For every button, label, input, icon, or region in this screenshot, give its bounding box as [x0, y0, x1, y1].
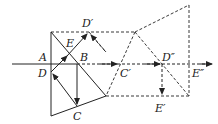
- label-D-double-prime: D″: [161, 51, 176, 64]
- prism: [51, 32, 106, 116]
- label-C-prime: C′: [120, 67, 131, 80]
- label-B: B: [79, 51, 88, 64]
- label-D: D: [37, 67, 47, 80]
- label-A: A: [38, 51, 47, 64]
- label-C: C: [73, 110, 82, 123]
- label-E-prime: E′: [154, 102, 166, 115]
- ray-diagram: A B C D E D′ C′ D″ E′ E″: [0, 0, 218, 124]
- label-E: E: [65, 37, 74, 50]
- label-D-prime: D′: [81, 17, 94, 30]
- label-E-double-prime: E″: [191, 67, 205, 80]
